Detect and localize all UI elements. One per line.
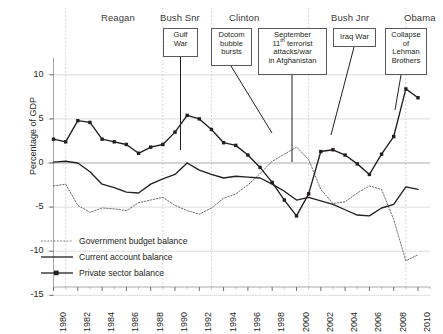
annotation-dotcom: Dotcom bubble bursts	[211, 28, 252, 66]
x-axis-tick-label: 1994	[228, 312, 238, 332]
x-axis-tick-label: 2008	[398, 312, 408, 332]
y-axis-tick-label: 5	[20, 113, 44, 123]
era-label-bush-jnr: Bush Jnr	[331, 12, 369, 23]
y-axis-tick-label: -10	[20, 245, 44, 255]
annotation-sept11: September 11th terrorist attacks/war in …	[258, 28, 327, 75]
era-label-clinton: Clinton	[229, 12, 259, 23]
annotation-iraq-war-line1: Iraq War	[340, 33, 369, 42]
annotation-dotcom-line3: bursts	[214, 48, 249, 57]
legend-label-government-budget-balance: Government budget balance	[79, 236, 187, 246]
annotation-gulf-war-line2: War	[166, 40, 195, 49]
legend-label-private-sector-balance: Private sector balance	[79, 268, 164, 278]
era-label-bush-snr: Bush Snr	[160, 12, 200, 23]
chart-legend: Government budget balance Current accoun…	[40, 233, 225, 281]
era-label-obama: Obama	[404, 12, 436, 23]
x-axis-tick-label: 1990	[179, 312, 189, 332]
annotation-lehman-line4: Brothers	[388, 57, 424, 66]
y-axis-title: Percentage of GDP	[28, 81, 38, 191]
x-axis-tick-label: 2002	[325, 312, 335, 332]
legend-item-government-budget-balance: Government budget balance	[40, 233, 225, 249]
x-axis-tick-label: 1988	[155, 312, 165, 332]
x-axis-tick-label: 1996	[252, 312, 262, 332]
legend-swatch-dotted	[40, 236, 74, 246]
x-axis-tick-label: 1982	[82, 312, 92, 332]
era-label-reagan: Reagan	[101, 12, 135, 23]
annotation-iraq-war: Iraq War	[333, 28, 376, 47]
x-axis-tick-label: 1986	[130, 312, 140, 332]
x-axis-tick-label: 2000	[301, 312, 311, 332]
x-axis-tick-label: 2010	[422, 312, 432, 332]
x-axis-tick-label: 2004	[349, 312, 359, 332]
x-axis-tick-label: 1980	[58, 312, 68, 332]
annotation-gulf-war: Gulf War	[163, 28, 198, 57]
x-axis-tick-label: 1998	[276, 312, 286, 332]
annotation-lehman: Collapse of Lehman Brothers	[385, 28, 427, 75]
annotation-sept11-line4: in Afghanistan	[261, 57, 324, 66]
legend-swatch-solid-marker	[40, 268, 74, 278]
x-axis-tick-label: 1992	[203, 312, 213, 332]
legend-swatch-solid	[40, 252, 74, 262]
y-axis-tick-label: 0	[20, 157, 44, 167]
legend-item-private-sector-balance: Private sector balance	[40, 265, 225, 281]
x-axis-tick-label: 2006	[373, 312, 383, 332]
chart-container: Percentage of GDP Reagan Bush Snr Clinto…	[0, 0, 443, 334]
legend-item-current-account-balance: Current account balance	[40, 249, 225, 265]
y-axis-tick-label: 10	[20, 69, 44, 79]
y-axis-tick-label: -15	[20, 289, 44, 299]
legend-label-current-account-balance: Current account balance	[79, 252, 173, 262]
x-axis-tick-label: 1984	[106, 312, 116, 332]
y-axis-tick-label: -5	[20, 201, 44, 211]
